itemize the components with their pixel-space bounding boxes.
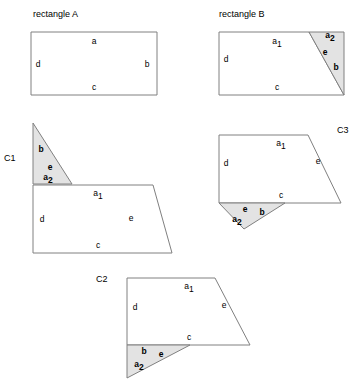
c3-label-e-right: e bbox=[316, 156, 321, 166]
panel-rectangle-b: a1 a2 b c d e rectangle B bbox=[219, 9, 344, 95]
caption-c3: C3 bbox=[337, 125, 349, 135]
label-a2-subscript: 2 bbox=[237, 217, 242, 227]
rectangle-a-label-d: d bbox=[36, 59, 41, 69]
label-a1-subscript: 1 bbox=[98, 191, 103, 201]
rectangle-a-label-b: b bbox=[145, 59, 150, 69]
geometric-dissection-figure: a b c d rectangle A a1 a2 b c d e rectan… bbox=[0, 0, 359, 386]
c2-label-e-triangle: e bbox=[159, 349, 164, 359]
c1-label-e: e bbox=[129, 213, 134, 223]
c1-label-b: b bbox=[38, 144, 43, 154]
caption-c2: C2 bbox=[96, 274, 108, 284]
label-a1-subscript: 1 bbox=[281, 141, 286, 151]
panel-c1: b e a2 a1 d e c C1 bbox=[4, 123, 172, 253]
caption-c1: C1 bbox=[4, 153, 16, 163]
label-a2-subscript: 2 bbox=[330, 33, 335, 43]
c3-label-b: b bbox=[259, 207, 264, 217]
c3-label-d: d bbox=[224, 158, 229, 168]
caption-rectangle-a: rectangle A bbox=[33, 9, 78, 19]
rectangle-b-label-e: e bbox=[323, 47, 328, 57]
c3-triangle bbox=[219, 203, 285, 229]
c2-label-d: d bbox=[133, 302, 138, 312]
label-a1-subscript: 1 bbox=[277, 39, 282, 49]
caption-rectangle-b: rectangle B bbox=[219, 9, 265, 19]
c1-label-e-triangle: e bbox=[48, 162, 53, 172]
label-a2-subscript: 2 bbox=[48, 175, 53, 185]
c2-label-b: b bbox=[141, 346, 146, 356]
rectangle-b-label-d: d bbox=[224, 54, 229, 64]
label-a2-subscript: 2 bbox=[139, 362, 144, 372]
figure-canvas: a b c d rectangle A a1 a2 b c d e rectan… bbox=[0, 0, 359, 386]
c2-label-e-right: e bbox=[222, 300, 227, 310]
rectangle-b-label-b: b bbox=[333, 62, 338, 72]
panel-c2: a1 d e c b e a2 C2 bbox=[96, 274, 250, 378]
rectangle-a-label-a: a bbox=[92, 36, 97, 46]
c1-label-d: d bbox=[40, 214, 45, 224]
panel-c3: a1 d e c e b a2 C3 bbox=[219, 125, 349, 229]
label-a1-subscript: 1 bbox=[189, 284, 194, 294]
c3-label-a2: a2 bbox=[232, 214, 242, 227]
c3-label-e-triangle: e bbox=[243, 204, 248, 214]
panel-rectangle-a: a b c d rectangle A bbox=[31, 9, 157, 95]
